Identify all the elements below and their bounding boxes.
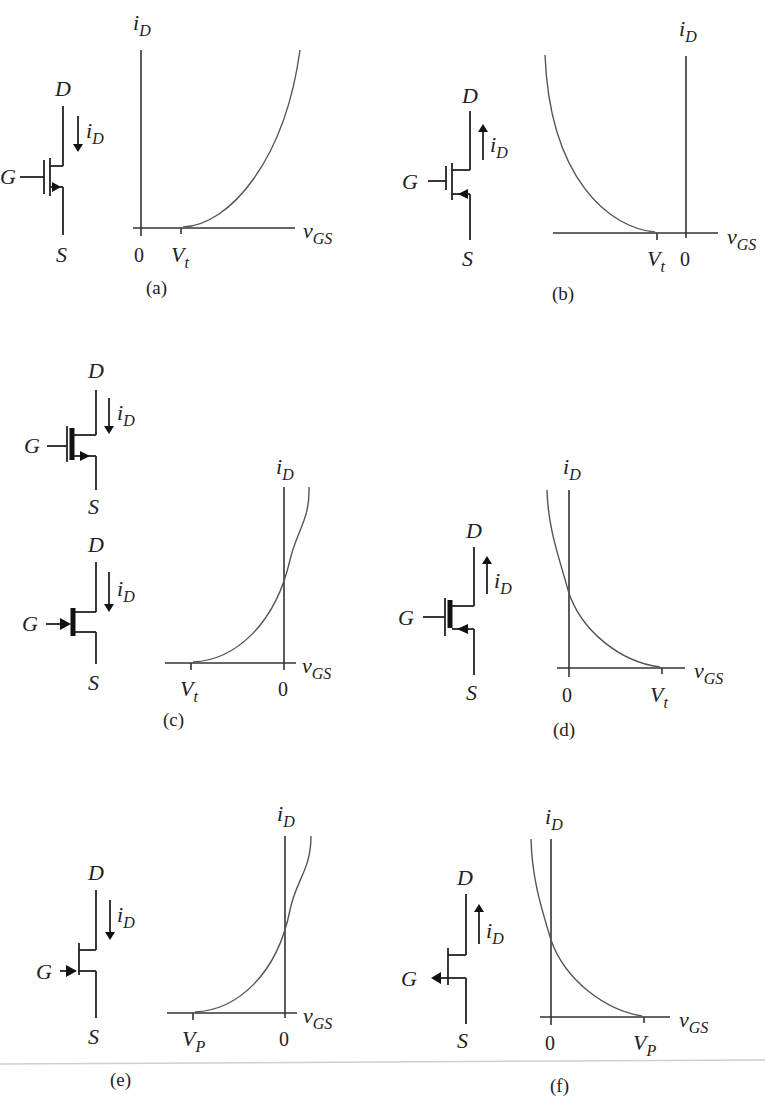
source-label: S <box>462 246 473 271</box>
tick-zero: 0 <box>134 244 144 266</box>
chart-a: iD vGS 0 Vt <box>133 10 332 271</box>
x-axis-label: vGS <box>303 218 332 247</box>
current-label: iD <box>86 118 104 147</box>
tick-vp: VP <box>182 1026 205 1055</box>
y-axis-label: iD <box>276 454 294 483</box>
pmos-depletion-symbol: D G S iD <box>398 518 512 705</box>
tick-zero: 0 <box>562 684 572 706</box>
source-arrow-icon <box>80 451 90 461</box>
gate-label: G <box>398 605 414 630</box>
x-axis-label: vGS <box>679 1007 708 1036</box>
gate-label: G <box>22 611 38 636</box>
current-label: iD <box>486 918 504 947</box>
source-arrow-icon <box>457 624 468 634</box>
pmos-enhancement-symbol: D G S iD <box>402 83 508 271</box>
caption-a: (a) <box>146 277 167 299</box>
source-label: S <box>457 1028 468 1053</box>
panel-e: D G S iD iD vGS VP 0 (e) <box>36 801 332 1091</box>
drain-label: D <box>461 83 478 108</box>
gate-arrow-icon <box>66 965 77 977</box>
panel-d: D G S iD iD vGS 0 Vt (d) <box>398 454 723 741</box>
caption-e: (e) <box>110 1069 131 1091</box>
gate-arrow-icon <box>60 618 71 630</box>
tick-vt: Vt <box>171 242 189 271</box>
source-arrow-icon <box>458 189 468 199</box>
y-axis-label: iD <box>563 454 581 483</box>
y-axis-label: iD <box>679 16 697 45</box>
tick-zero: 0 <box>545 1032 555 1054</box>
x-axis-label: vGS <box>302 653 331 682</box>
chart-d: iD vGS 0 Vt <box>547 454 723 711</box>
drain-label: D <box>87 532 104 557</box>
drain-label: D <box>456 865 473 890</box>
pjfet-symbol: D G S iD <box>401 865 504 1053</box>
page-rule-divider <box>0 1060 765 1064</box>
source-label: S <box>466 680 477 705</box>
panel-c: D G S iD D G S iD <box>22 358 331 731</box>
tick-zero: 0 <box>278 678 288 700</box>
tick-vt: Vt <box>180 676 198 705</box>
gate-label: G <box>402 169 418 194</box>
gate-arrow-icon <box>431 972 441 984</box>
panel-a: D G S iD iD vGS 0 Vt (a) <box>0 10 332 299</box>
gate-label: G <box>24 433 40 458</box>
tick-vt: Vt <box>650 682 668 711</box>
drain-label: D <box>87 358 104 383</box>
source-label: S <box>88 1024 99 1049</box>
caption-d: (d) <box>553 719 575 741</box>
x-axis-label: vGS <box>694 658 723 687</box>
tick-vp: VP <box>633 1030 656 1059</box>
caption-f: (f) <box>550 1075 569 1097</box>
caption-b: (b) <box>552 283 574 305</box>
tick-zero: 0 <box>279 1028 289 1050</box>
current-label: iD <box>117 576 135 605</box>
source-label: S <box>56 242 67 267</box>
nmos-enhancement-symbol: D G S iD <box>0 76 104 267</box>
drain-label: D <box>54 76 71 101</box>
current-label: iD <box>494 568 512 597</box>
drain-label: D <box>87 860 104 885</box>
chart-f: iD vGS 0 VP <box>531 804 708 1059</box>
panel-f: D G S iD iD vGS 0 VP (f) <box>401 804 708 1097</box>
tick-vt: Vt <box>647 246 665 275</box>
gate-label: G <box>36 959 52 984</box>
source-arrow-icon <box>52 182 61 192</box>
current-label: iD <box>490 132 508 161</box>
x-axis-label: vGS <box>303 1003 332 1032</box>
chart-c: iD vGS Vt 0 <box>165 454 331 705</box>
source-label: S <box>88 670 99 695</box>
drain-label: D <box>465 518 482 543</box>
nmos-depletion-alt-symbol: D G S iD <box>22 532 135 695</box>
y-axis-label: iD <box>277 801 295 830</box>
current-label: iD <box>117 400 135 429</box>
y-axis-label: iD <box>545 804 563 833</box>
x-axis-label: vGS <box>727 224 756 253</box>
gate-label: G <box>401 966 417 991</box>
y-axis-label: iD <box>133 10 151 39</box>
current-label: iD <box>117 902 135 931</box>
njfet-symbol: D G S iD <box>36 860 135 1049</box>
nmos-depletion-symbol: D G S iD <box>24 358 135 519</box>
source-label: S <box>88 494 99 519</box>
chart-e: iD vGS VP 0 <box>167 801 332 1055</box>
caption-c: (c) <box>163 709 184 731</box>
panel-b: D G S iD iD vGS Vt 0 (b) <box>402 16 756 305</box>
chart-b: iD vGS Vt 0 <box>545 16 756 275</box>
tick-zero: 0 <box>680 248 690 270</box>
gate-label: G <box>0 164 16 189</box>
